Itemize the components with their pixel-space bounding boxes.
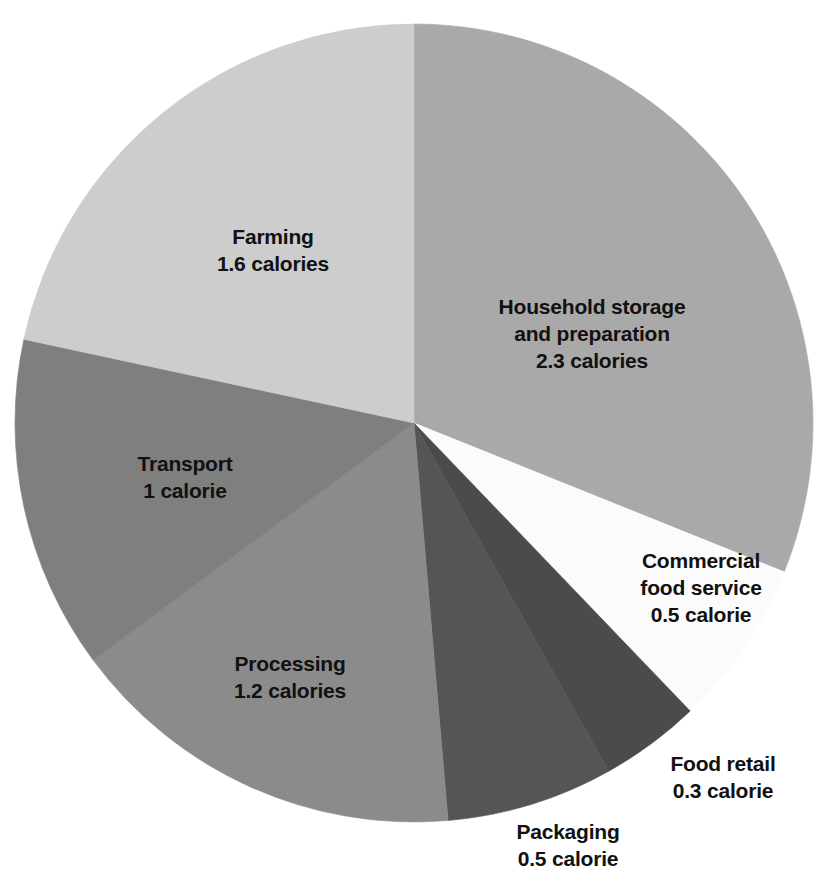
- pie-chart-canvas: [0, 0, 820, 885]
- pie-slice-group: [15, 24, 813, 822]
- pie-chart: Household storageand preparation2.3 calo…: [0, 0, 820, 885]
